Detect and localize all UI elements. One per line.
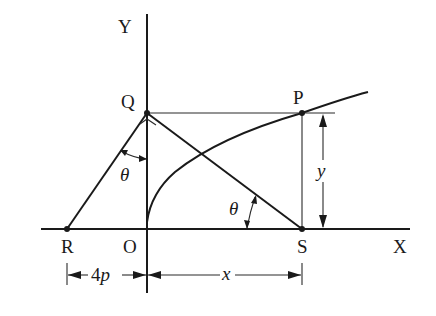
angle-arrow-S-up bbox=[251, 195, 257, 204]
x-axis-label: X bbox=[393, 236, 407, 257]
point-S bbox=[299, 226, 305, 232]
dim-x-arrow-right bbox=[288, 271, 301, 279]
dim-4p-label: 4p bbox=[91, 264, 110, 285]
origin-label: O bbox=[123, 236, 137, 257]
angle-theta-S-label: θ bbox=[229, 198, 238, 219]
dim-y-label: y bbox=[315, 160, 326, 181]
line-QS bbox=[147, 113, 302, 229]
dim-4p-label-number: 4 bbox=[91, 264, 101, 285]
point-S-label: S bbox=[297, 236, 308, 257]
dim-x-label: x bbox=[221, 263, 231, 284]
dim-y-arrow-up bbox=[319, 114, 327, 127]
line-RQ bbox=[67, 113, 147, 229]
angle-theta-Q-label: θ bbox=[120, 164, 129, 185]
dim-y-arrow-down bbox=[319, 215, 327, 228]
point-Q-label: Q bbox=[121, 91, 135, 112]
y-axis-label: Y bbox=[118, 16, 132, 37]
point-P bbox=[299, 110, 305, 116]
angle-arrow-Q-right bbox=[139, 155, 147, 162]
point-R bbox=[64, 226, 70, 232]
dim-4p-label-var: p bbox=[99, 264, 111, 285]
dim-4p-arrow-right bbox=[133, 271, 146, 279]
parabola-geometry-diagram: Y X O Q P R S θ θ y 4p x bbox=[0, 0, 436, 316]
point-P-label: P bbox=[293, 87, 304, 108]
dim-4p-arrow-left bbox=[68, 271, 81, 279]
point-R-label: R bbox=[61, 236, 74, 257]
angle-arrow-Q-left bbox=[120, 150, 128, 156]
point-Q bbox=[144, 110, 150, 116]
angle-arrow-S-down bbox=[244, 220, 250, 229]
dim-x-arrow-left bbox=[148, 271, 161, 279]
